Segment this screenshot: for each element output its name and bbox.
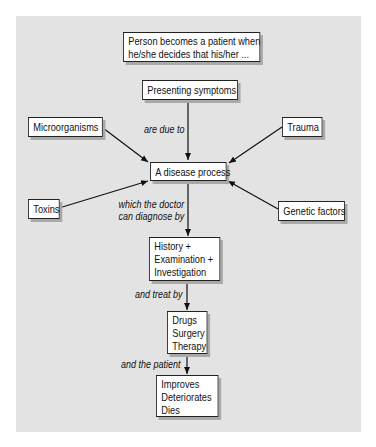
intro-line-1: Person becomes a patient when [128,35,255,48]
diagnosis-line-2: Examination + [154,253,215,266]
diagnosis-line-1: History + [154,240,215,253]
trauma-box: Trauma [282,117,322,137]
edge-label-diagnose-line-1: which the doctor [115,199,184,211]
diagnosis-line-3: Investigation [154,266,215,279]
arrow-trauma-to-disease [229,127,282,163]
genetic-factors-box: Genetic factors [278,201,345,221]
edge-label-and-the-patient: and the patient [121,359,181,371]
intro-line-2: he/she decides that his/her ... [128,48,255,61]
edge-label-are-due-to: are due to [144,124,185,136]
outcome-line-3: Dies [161,404,213,417]
edge-label-diagnose-line-2: can diagnose by [115,211,184,223]
arrow-genetic-to-disease [228,181,278,209]
microorganisms-box: Microorganisms [28,117,103,137]
arrow-microorganisms-to-disease [103,128,148,162]
treatment-line-1: Drugs [172,314,202,327]
treatment-box: Drugs Surgery Therapy [167,311,207,354]
treatment-line-3: Therapy [172,340,202,353]
edge-label-treat-by: and treat by [135,289,183,301]
edge-label-diagnose: which the doctor can diagnose by [115,199,184,223]
presenting-symptoms-box: Presenting symptoms [142,80,238,100]
diagnosis-box: History + Examination + Investigation [149,237,220,281]
treatment-line-2: Surgery [172,327,202,340]
toxins-box: Toxins [28,199,60,219]
outcome-line-2: Deteriorates [161,391,213,404]
outcome-box: Improves Deteriorates Dies [156,375,218,417]
outcome-line-1: Improves [161,378,213,391]
disease-process-box: A disease process [150,162,227,181]
intro-box: Person becomes a patient when he/she dec… [123,32,260,62]
